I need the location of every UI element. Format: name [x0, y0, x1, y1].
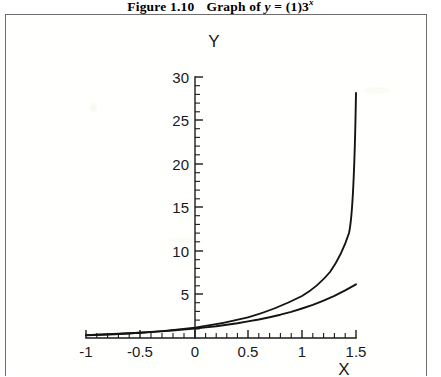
figure-frame: 30 25 20 15 10 5 -1 -0.5 0 0.5 1 1.5 Y X [5, 14, 427, 376]
figure-number: Figure 1.10 [127, 0, 194, 14]
y-axis-major-ticks [195, 77, 203, 294]
x-tick-label: 1.5 [346, 343, 367, 360]
y-axis-title: Y [208, 32, 219, 51]
y-tick-label: 20 [172, 156, 189, 173]
x-axis-title: X [338, 360, 349, 377]
x-tick-label: 1 [298, 343, 306, 360]
y-tick-label: 15 [172, 199, 189, 216]
y-tick-label: 30 [172, 69, 189, 86]
figure-caption-equation: = (1)3 [271, 0, 309, 14]
plot-area: 30 25 20 15 10 5 -1 -0.5 0 0.5 1 1.5 Y X [6, 15, 428, 377]
curve-exponential [86, 284, 356, 335]
y-tick-label: 10 [172, 243, 189, 260]
curve-plot-line [86, 93, 356, 335]
figure-caption: Figure 1.10Graph of y = (1)3x [0, 0, 441, 15]
x-tick-label: 0.5 [238, 343, 259, 360]
x-tick-label: -0.5 [127, 343, 153, 360]
figure-caption-exponent: x [309, 0, 314, 7]
figure-caption-text: Graph of [206, 0, 264, 14]
x-tick-label: 0 [191, 343, 199, 360]
x-tick-label: -1 [79, 343, 92, 360]
y-tick-label: 5 [181, 286, 189, 303]
y-tick-label: 25 [172, 112, 189, 129]
